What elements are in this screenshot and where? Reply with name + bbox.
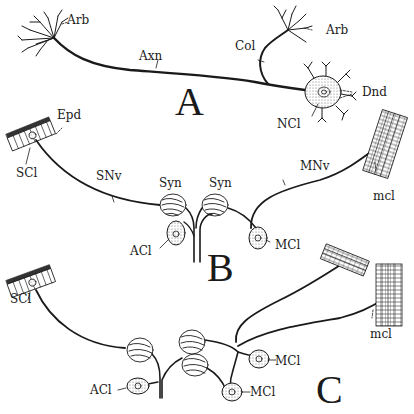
label-mcl-cell-c-lower: MCl [250, 386, 275, 398]
label-arb-left: Arb [67, 14, 89, 26]
label-scl-c: SCl [10, 293, 31, 305]
muscle-fiber-c-lower-icon [376, 264, 402, 326]
synapse-c1-icon [127, 338, 153, 362]
label-syn-left: Syn [159, 177, 182, 189]
diagram-drawing [0, 0, 414, 414]
arborization-left-icon [18, 10, 68, 56]
neuron-diagram: Arb Axn Col Arb Dnd NCl A Epd SCl SNv Sy… [0, 0, 414, 414]
label-syn-right: Syn [209, 177, 232, 189]
synapse-c2-icon [179, 330, 205, 354]
epidermis-icon [6, 117, 55, 151]
motor-nerve-b [251, 145, 380, 228]
label-acl-c: ACl [90, 384, 112, 396]
label-mcl-muscle-c: mcl [370, 328, 392, 340]
label-axn: Axn [139, 50, 162, 62]
nerve-cell-body [305, 76, 341, 108]
motor-cell-c-lower [222, 383, 242, 401]
label-acl-b: ACl [130, 245, 152, 257]
panel-letter-b: B [207, 248, 234, 288]
sensory-nerve-c [36, 290, 125, 348]
motor-cell-b [249, 227, 267, 249]
label-dnd: Dnd [362, 86, 387, 98]
panel-letter-c: C [316, 370, 343, 410]
panel-b-reflex-arc [6, 110, 407, 262]
label-col: Col [235, 40, 255, 52]
synapse-left-icon [160, 194, 186, 216]
panel-letter-a: A [175, 82, 204, 122]
label-mcl-cell-b: MCl [275, 239, 300, 251]
motor-nerve-c-upper [236, 262, 345, 342]
label-mcl-muscle-b: mcl [373, 190, 395, 202]
synapse-c3-icon [182, 354, 208, 376]
muscle-fiber-b-icon [363, 110, 408, 179]
label-mnv: MNv [300, 160, 330, 172]
motor-cell-c-upper [249, 350, 269, 368]
collateral [260, 30, 288, 84]
label-epd: Epd [57, 109, 81, 121]
muscle-fiber-c-upper-icon [321, 244, 370, 276]
label-scl-b: SCl [16, 167, 37, 179]
label-arb-right: Arb [326, 24, 348, 36]
association-cell-c [127, 378, 149, 394]
label-mcl-cell-c-upper: MCl [275, 355, 300, 367]
motor-nerve-c-lower [238, 298, 385, 346]
synapse-right-icon [202, 194, 228, 216]
label-snv: SNv [96, 170, 122, 182]
label-ncl: NCl [277, 118, 301, 130]
association-cell-b [167, 221, 185, 245]
